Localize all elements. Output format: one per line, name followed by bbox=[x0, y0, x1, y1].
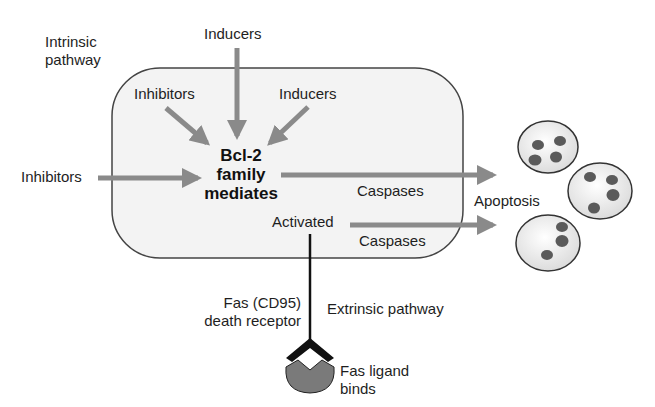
extrinsic-pathway-label: Extrinsic pathway bbox=[327, 300, 444, 318]
bcl2-line3: mediates bbox=[196, 184, 286, 203]
apoptotic-cell-2 bbox=[568, 163, 632, 219]
fas-receptor-head-icon bbox=[286, 338, 334, 362]
bcl2-node: Bcl-2 family mediates bbox=[196, 146, 286, 203]
fas-receptor-label: Fas (CD95) death receptor bbox=[198, 294, 301, 330]
intrinsic-pathway-label: Intrinsic pathway bbox=[45, 33, 101, 69]
caspases-upper-label: Caspases bbox=[357, 182, 424, 200]
fas-ligand-icon bbox=[286, 360, 334, 393]
fas-ligand-label: Fas ligand binds bbox=[340, 362, 409, 398]
inducers-top-label: Inducers bbox=[204, 25, 262, 43]
inhibitors-left-label: Inhibitors bbox=[21, 168, 82, 186]
apoptotic-cell-3 bbox=[516, 215, 580, 271]
bcl2-line2: family bbox=[196, 165, 286, 184]
inhibitors-inner-label: Inhibitors bbox=[134, 85, 195, 103]
activated-label: Activated bbox=[272, 213, 334, 231]
apoptosis-label: Apoptosis bbox=[474, 192, 540, 210]
caspases-lower-label: Caspases bbox=[359, 232, 426, 250]
bcl2-line1: Bcl-2 bbox=[196, 146, 286, 165]
inducers-inner-label: Inducers bbox=[279, 85, 337, 103]
apoptotic-cell-1 bbox=[518, 121, 578, 173]
